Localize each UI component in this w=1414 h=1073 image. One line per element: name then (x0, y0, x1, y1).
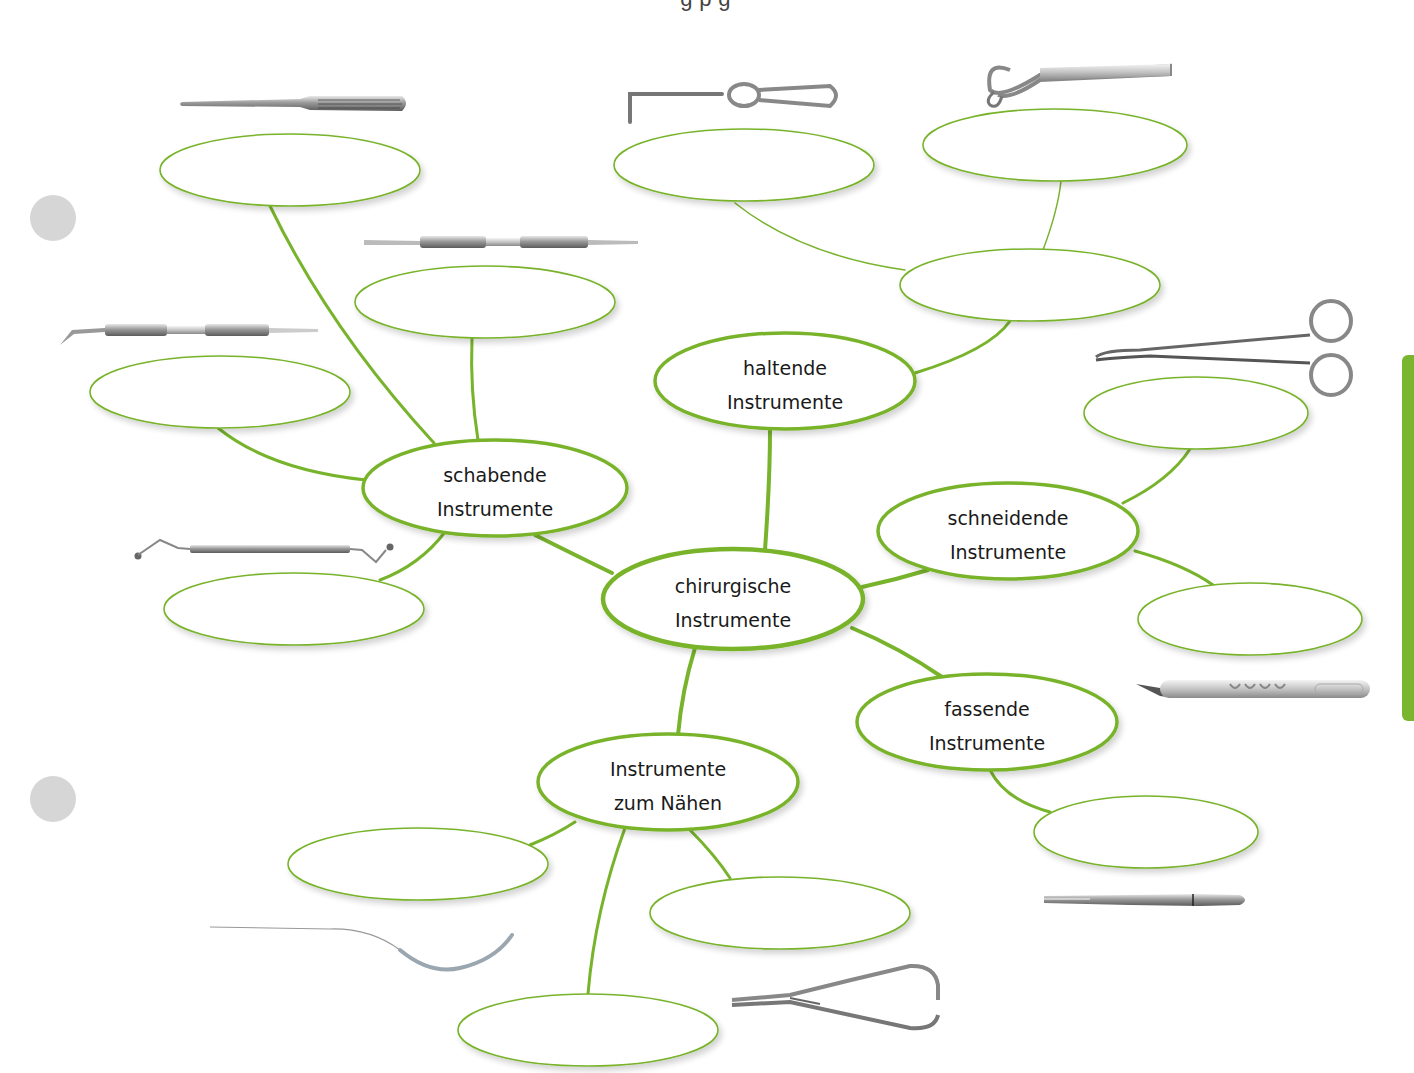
category-node-naehen-label-line2: zum Nähen (614, 792, 722, 814)
blank-field-oval[interactable] (458, 994, 718, 1066)
blank-answer-field[interactable] (458, 994, 718, 1066)
blank-answer-field[interactable] (288, 828, 548, 900)
connector-schabende-blank4 (380, 532, 445, 580)
category-node-haltende-label-line1: haltende (743, 357, 827, 379)
connector-naehen-blank1 (530, 822, 575, 845)
category-node-schneidende-label-line2: Instrumente (950, 541, 1066, 563)
blank-field-oval[interactable] (923, 109, 1187, 181)
category-node-schneidende: schneidendeInstrumente (878, 483, 1138, 579)
blank-field-oval[interactable] (355, 266, 615, 338)
category-node-schabende: schabendeInstrumente (363, 440, 627, 536)
blank-field-oval[interactable] (614, 129, 874, 201)
category-node-schabende-oval (363, 440, 627, 536)
connector-schneidende-blank1 (1123, 449, 1190, 503)
category-node-naehen-label-line1: Instrumente (610, 758, 726, 780)
connector-naehen-blank3 (588, 828, 625, 994)
blank-field-oval[interactable] (164, 573, 424, 645)
connector-schneidende-blank2 (1135, 551, 1213, 585)
connector-schabende-blank2 (472, 338, 478, 440)
scalpel-icon (1136, 680, 1370, 698)
blank-field-oval[interactable] (1084, 377, 1308, 449)
category-node-haltende-label-line2: Instrumente (727, 391, 843, 413)
wound-retractor-hook-icon (630, 84, 836, 122)
category-node-haltende: haltendeInstrumente (655, 333, 915, 429)
tongue-retractor-icon (988, 64, 1170, 106)
connector-center-schneidende (862, 570, 928, 587)
category-node-naehen: Instrumentezum Nähen (538, 734, 798, 830)
double-ended-instrument-icon (364, 236, 638, 248)
connector-haltende-hub (915, 321, 1010, 373)
blank-answer-field[interactable] (650, 877, 910, 949)
double-ended-probe-icon (60, 324, 318, 345)
blank-answer-field[interactable] (900, 249, 1160, 321)
blank-answer-field[interactable] (90, 356, 350, 428)
category-node-fassende-label-line1: fassende (944, 698, 1030, 720)
blank-field-oval[interactable] (288, 828, 548, 900)
category-node-fassende: fassendeInstrumente (857, 674, 1117, 770)
center-node: chirurgischeInstrumente (603, 549, 863, 649)
blank-answer-field[interactable] (614, 129, 874, 201)
blank-answer-field[interactable] (160, 134, 420, 206)
blank-field-oval[interactable] (90, 356, 350, 428)
blank-answer-field[interactable] (355, 266, 615, 338)
connector-center-schabende (535, 535, 612, 573)
needle-holder-icon (732, 966, 938, 1028)
connector-hub-blank1 (735, 203, 905, 270)
category-node-naehen-oval (538, 734, 798, 830)
connector-center-fassende (852, 628, 942, 677)
surgical-tweezers-icon (1044, 894, 1245, 906)
category-node-schabende-label-line1: schabende (443, 464, 547, 486)
connector-schabende-blank3 (218, 428, 366, 480)
connector-center-naehen (678, 648, 695, 735)
blank-field-oval[interactable] (160, 134, 420, 206)
connector-fassende-blank1 (990, 770, 1050, 812)
connector-naehen-blank2 (690, 830, 730, 878)
blank-field-oval[interactable] (900, 249, 1160, 321)
center-node-chirurgische-instrumente-label-line1: chirurgische (675, 575, 792, 597)
blank-field-oval[interactable] (1138, 583, 1362, 655)
blank-answer-field[interactable] (1138, 583, 1362, 655)
blank-field-oval[interactable] (650, 877, 910, 949)
suture-needle-icon (210, 927, 512, 970)
blank-answer-field[interactable] (1034, 796, 1258, 868)
blank-answer-field[interactable] (1084, 377, 1308, 449)
category-node-schneidende-label-line1: schneidende (948, 507, 1069, 529)
connector-center-haltende (765, 430, 770, 550)
category-node-fassende-label-line2: Instrumente (929, 732, 1045, 754)
center-node-chirurgische-instrumente-oval (603, 549, 863, 649)
category-node-schneidende-oval (878, 483, 1138, 579)
connector-hub-blank2 (1043, 181, 1061, 250)
category-node-schabende-label-line2: Instrumente (437, 498, 553, 520)
blank-field-oval[interactable] (1034, 796, 1258, 868)
periosteal-elevator-icon (180, 96, 406, 111)
blank-answer-field[interactable] (164, 573, 424, 645)
center-node-chirurgische-instrumente: chirurgischeInstrumente (603, 549, 863, 649)
bone-curette-icon (135, 540, 394, 562)
center-node-chirurgische-instrumente-label-line2: Instrumente (675, 609, 791, 631)
category-node-haltende-oval (655, 333, 915, 429)
category-node-fassende-oval (857, 674, 1117, 770)
blank-answer-field[interactable] (923, 109, 1187, 181)
